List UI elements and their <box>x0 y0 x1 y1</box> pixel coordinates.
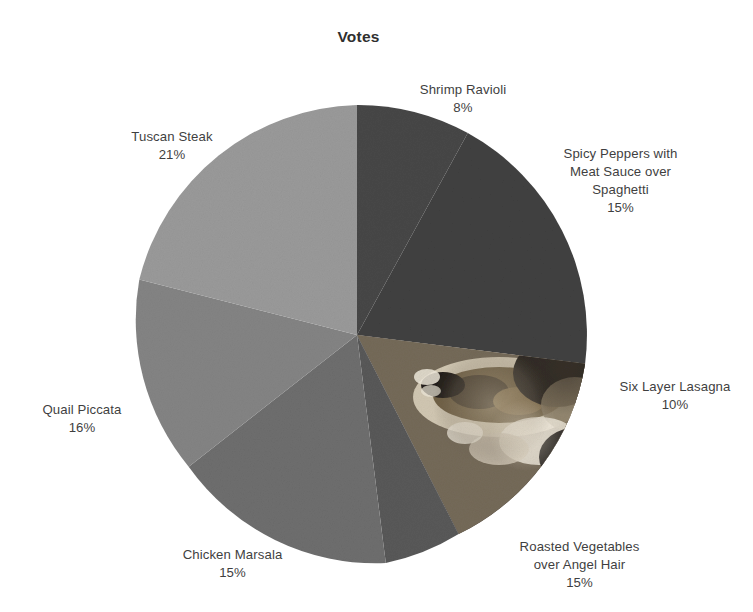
pie-label-roasted-vegetables-pct: 15% <box>487 574 672 592</box>
pie-label-spicy-peppers-name: Spicy Peppers with Meat Sauce over Spagh… <box>564 146 678 197</box>
pie-label-roasted-vegetables-name: Roasted Vegetables over Angel Hair <box>520 539 640 572</box>
pie-label-shrimp-ravioli-name: Shrimp Ravioli <box>420 82 506 97</box>
pie-label-quail-piccata-name: Quail Piccata <box>43 402 122 417</box>
pie-label-chicken-marsala-pct: 15% <box>140 564 325 582</box>
pie-label-spicy-peppers: Spicy Peppers with Meat Sauce over Spagh… <box>528 127 713 235</box>
pie-label-chicken-marsala: Chicken Marsala 15% <box>140 528 325 600</box>
pie-label-six-layer-lasagna-pct: 10% <box>600 396 750 414</box>
pie-label-quail-piccata: Quail Piccata 16% <box>12 383 152 455</box>
pie-label-tuscan-steak: Tuscan Steak 21% <box>92 110 252 182</box>
chart-title-text: Votes <box>337 28 379 46</box>
pie-label-quail-piccata-pct: 16% <box>12 419 152 437</box>
chart-title: Votes <box>0 28 753 46</box>
pie-label-roasted-vegetables: Roasted Vegetables over Angel Hair 15% <box>487 520 672 610</box>
chart-canvas: Votes <box>0 0 753 612</box>
pie-label-shrimp-ravioli: Shrimp Ravioli 8% <box>378 63 548 135</box>
pie-label-tuscan-steak-name: Tuscan Steak <box>131 129 212 144</box>
pie-label-spicy-peppers-pct: 15% <box>528 199 713 217</box>
pie-label-six-layer-lasagna: Six Layer Lasagna 10% <box>600 360 750 432</box>
pie-label-six-layer-lasagna-name: Six Layer Lasagna <box>620 379 731 394</box>
pie-label-chicken-marsala-name: Chicken Marsala <box>183 547 283 562</box>
pie-label-tuscan-steak-pct: 21% <box>92 146 252 164</box>
pie-label-shrimp-ravioli-pct: 8% <box>378 99 548 117</box>
